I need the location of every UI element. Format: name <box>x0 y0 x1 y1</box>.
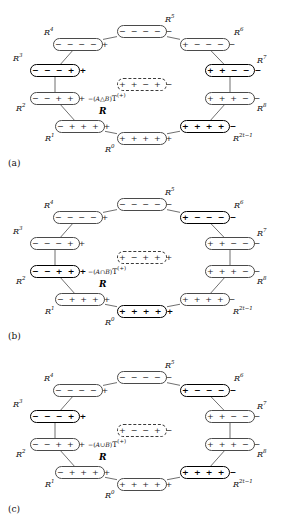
center-caption-set: A∪B <box>96 441 110 448</box>
edge-R8-R2t1 <box>211 278 224 293</box>
edge-R6-R7 <box>211 224 224 237</box>
node-label-r3: R3 <box>13 52 23 63</box>
node-label-r2: R2 <box>16 102 26 113</box>
center-caption-transpose-superscript: (+) <box>117 265 126 271</box>
node-label-r1: R1 <box>45 132 55 143</box>
edge-R5-R6 <box>167 210 180 213</box>
node-label-superscript: 3 <box>19 52 23 58</box>
node-label-r6: R6 <box>234 372 244 383</box>
node-label-superscript: 6 <box>240 199 244 205</box>
node-label-superscript: 4 <box>50 372 54 378</box>
node-label-superscript: 7 <box>263 54 267 60</box>
node-label-r6: R6 <box>234 26 244 37</box>
node-r7: + + − − − <box>205 410 255 423</box>
node-label-superscript: 2 <box>22 448 26 454</box>
node-r6: + − − − − <box>180 38 230 51</box>
node-r5: − − − − − <box>117 198 167 211</box>
node-r1: − + + + + <box>55 466 105 479</box>
node-label-r2: R2 <box>16 275 26 286</box>
center-node: + + − + − <box>117 78 167 91</box>
node-r2: − − + + + <box>30 438 80 451</box>
node-label-superscript: 6 <box>240 372 244 378</box>
node-label-r3: R3 <box>13 398 23 409</box>
node-r4: − − − − + <box>53 211 103 224</box>
edge-R0-R1 <box>105 131 117 133</box>
region-r-mark: R <box>99 279 106 289</box>
node-label-r0: R0 <box>105 143 115 154</box>
node-label-superscript: 5 <box>171 186 175 192</box>
edge-R5-R6 <box>167 383 180 386</box>
center-caption-transpose-superscript: (+) <box>117 438 126 444</box>
node-label-r1: R1 <box>45 478 55 489</box>
center-caption: −(A∩B)T(+) <box>88 265 126 276</box>
node-label-superscript: 2t−1 <box>239 478 253 484</box>
node-label-superscript: 0 <box>111 489 115 495</box>
center-caption-prefix: −( <box>88 441 96 448</box>
node-r6: + − − − − <box>180 211 230 224</box>
edge-R4-R5 <box>103 210 117 213</box>
node-label-r5: R5 <box>165 186 175 197</box>
node-label-superscript: 3 <box>19 398 23 404</box>
panel-b: − − − − +R4− − − − −R5+ − − − −R6+ + − −… <box>0 173 285 346</box>
node-r1: − + + + + <box>55 120 105 133</box>
center-node: + − + + + <box>117 251 167 264</box>
node-label-r4: R4 <box>44 372 54 383</box>
center-caption-transpose: T(+) <box>112 267 126 276</box>
node-r2t1: + + + + − <box>180 466 230 479</box>
node-r0: + + + + + <box>117 305 167 318</box>
edge-R4-R5 <box>103 37 117 40</box>
node-label-superscript: 1 <box>51 478 55 484</box>
node-label-superscript: 8 <box>263 448 267 454</box>
node-r3: − − − + + <box>30 64 80 77</box>
node-r8: + + + − − <box>205 438 255 451</box>
center-caption: −(A△B)T(+) <box>88 92 126 103</box>
node-r8: + + + − − <box>205 265 255 278</box>
center-caption-transpose: T(+) <box>112 440 126 449</box>
node-label-r7: R7 <box>257 400 267 411</box>
region-r-mark: R <box>99 106 106 116</box>
node-r7: + + − − − <box>205 237 255 250</box>
node-label-r7: R7 <box>257 54 267 65</box>
node-r0: + + + + + <box>117 132 167 145</box>
edge-R3-R4 <box>61 224 73 237</box>
center-caption-transpose-superscript: (+) <box>117 92 126 98</box>
node-label-r4: R4 <box>44 26 54 37</box>
node-r3: − − − + + <box>30 410 80 423</box>
node-r2: − − + + + <box>30 92 80 105</box>
node-r5: − − − − − <box>117 25 167 38</box>
edge-R1-R2 <box>61 105 74 120</box>
edge-R4-R5 <box>103 383 117 386</box>
node-label-superscript: 7 <box>263 400 267 406</box>
node-label-superscript: 8 <box>263 102 267 108</box>
node-label-superscript: 0 <box>111 143 115 149</box>
node-r4: − − − − + <box>53 384 103 397</box>
node-label-r0: R0 <box>105 489 115 500</box>
panel-a: − − − − +R4− − − − −R5+ − − − −R6+ + − −… <box>0 0 285 173</box>
node-label-superscript: 3 <box>19 225 23 231</box>
edge-R1-R2 <box>61 451 74 466</box>
node-label-superscript: 7 <box>263 227 267 233</box>
node-label-superscript: 1 <box>51 132 55 138</box>
node-label-r8: R8 <box>257 102 267 113</box>
node-r7: + + − − − <box>205 64 255 77</box>
node-label-r0: R0 <box>105 316 115 327</box>
node-label-superscript: 4 <box>50 199 54 205</box>
edge-R8-R2t1 <box>211 105 224 120</box>
edge-R3-R4 <box>61 397 73 410</box>
node-r6: + − − − − <box>180 384 230 397</box>
node-label-r2t1: R2t−1 <box>233 305 253 316</box>
node-label-r7: R7 <box>257 227 267 238</box>
node-label-r1: R1 <box>45 305 55 316</box>
center-caption: −(A∪B)T(+) <box>88 438 126 449</box>
node-label-superscript: 2t−1 <box>239 305 253 311</box>
panel-label-c: (c) <box>8 504 20 514</box>
node-label-superscript: 2t−1 <box>239 132 253 138</box>
center-caption-transpose: T(+) <box>112 94 126 103</box>
edge-R0-R1 <box>105 477 117 479</box>
node-label-r5: R5 <box>165 359 175 370</box>
node-label-superscript: 8 <box>263 275 267 281</box>
node-label-superscript: 6 <box>240 26 244 32</box>
center-caption-prefix: −( <box>88 268 96 275</box>
panel-label-a: (a) <box>8 158 20 168</box>
node-label-superscript: 2 <box>22 102 26 108</box>
